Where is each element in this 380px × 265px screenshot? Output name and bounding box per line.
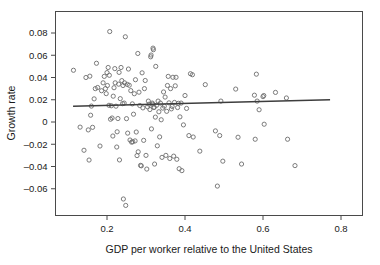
y-axis-title: Growth rate	[5, 85, 17, 140]
x-tick-label: 0.4	[178, 223, 191, 234]
y-tick-label: –0.06	[24, 183, 48, 194]
y-tick-label: –0.02	[24, 139, 48, 150]
x-tick-label: 0.2	[100, 223, 113, 234]
y-tick-label: 0.04	[29, 72, 48, 83]
y-tick-label: 0.06	[29, 50, 48, 61]
x-axis-title: GDP per worker relative to the United St…	[106, 243, 313, 255]
y-tick-label: 0	[42, 116, 47, 127]
y-tick-label: –0.04	[24, 161, 48, 172]
chart-figure: 0.20.40.60.8 0.080.060.040.020–0.02–0.04…	[0, 0, 380, 265]
x-tick-label: 0.8	[334, 223, 347, 234]
y-tick-label: 0.02	[29, 94, 48, 105]
x-tick-label: 0.6	[256, 223, 269, 234]
scatter-plot: 0.20.40.60.8 0.080.060.040.020–0.02–0.04…	[0, 0, 380, 265]
y-tick-label: 0.08	[29, 27, 48, 38]
